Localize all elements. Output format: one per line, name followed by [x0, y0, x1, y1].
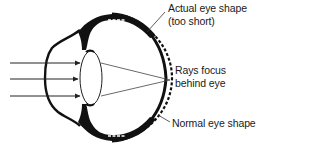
label-rays-focus: Rays focus [175, 64, 226, 76]
cornea [45, 30, 80, 126]
leader-normal-shape [158, 115, 170, 122]
leader-actual-shape [147, 12, 165, 32]
label-too-short: (too short) [168, 15, 215, 27]
lens [80, 51, 102, 105]
actual-eye-outline [112, 14, 166, 141]
label-behind-eye: behind eye [175, 77, 225, 89]
refracted-rays [101, 63, 170, 96]
label-actual-eye-shape: Actual eye shape [168, 2, 247, 14]
label-normal-eye-shape: Normal eye shape [172, 117, 256, 129]
